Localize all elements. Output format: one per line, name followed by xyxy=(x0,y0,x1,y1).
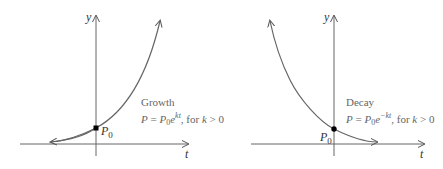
growth-point-label: P0 xyxy=(101,124,113,140)
decay-y-axis-label: y xyxy=(324,11,329,23)
decay-graph xyxy=(251,16,424,156)
growth-t-axis-label: t xyxy=(185,148,188,160)
decay-caption: Decay P = P0e−kt, for k > 0 xyxy=(346,96,434,129)
decay-title: Decay xyxy=(346,96,434,109)
growth-y-axis-label: y xyxy=(86,11,91,23)
diagram-canvas xyxy=(0,0,443,169)
growth-initial-point xyxy=(94,126,99,131)
decay-t-axis-label: t xyxy=(420,148,423,160)
decay-curve xyxy=(270,21,334,129)
growth-title: Growth xyxy=(141,96,224,109)
growth-caption: Growth P = P0ekt, for k > 0 xyxy=(141,96,224,129)
growth-formula: P = P0ekt, for k > 0 xyxy=(141,109,224,129)
decay-point-label: P0 xyxy=(320,130,332,146)
decay-initial-point xyxy=(331,126,336,131)
decay-formula: P = P0e−kt, for k > 0 xyxy=(346,109,434,129)
